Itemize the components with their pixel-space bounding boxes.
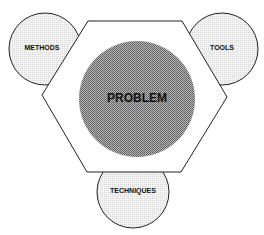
diagram-canvas: METHODS TOOLS TECHNIQUES PROBLEM — [0, 0, 264, 235]
problem-label: PROBLEM — [107, 91, 167, 105]
problem-node: PROBLEM — [79, 41, 195, 157]
tools-label: TOOLS — [210, 44, 234, 51]
methods-label: METHODS — [25, 44, 60, 51]
techniques-label: TECHNIQUES — [110, 187, 156, 195]
